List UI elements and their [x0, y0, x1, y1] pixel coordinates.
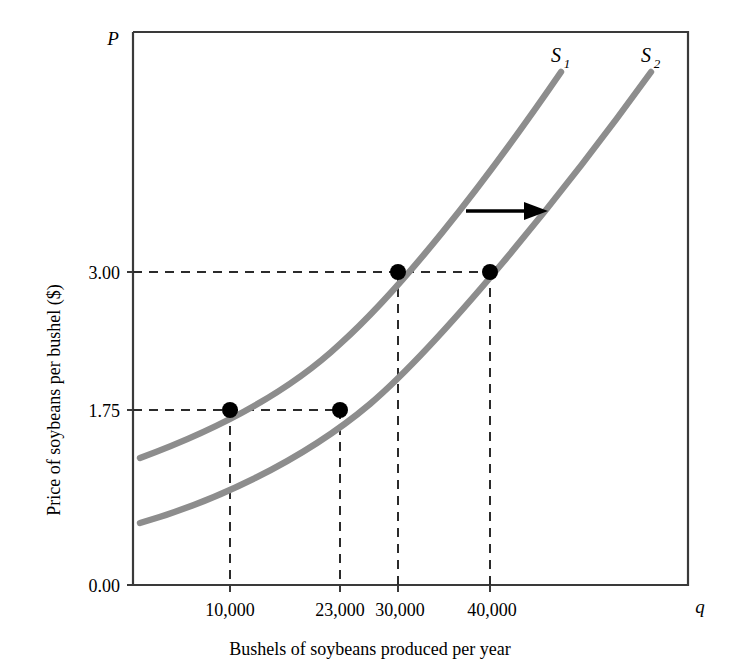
point-s2-1.75 [332, 402, 348, 418]
y-tick-label-1.75: 1.75 [89, 401, 121, 421]
y-tick-label-0.00: 0.00 [89, 576, 121, 596]
curve-label-s2-base: S [641, 44, 651, 66]
x-tick-label-23000: 23,000 [315, 600, 365, 620]
x-axis-variable-label: q [695, 596, 705, 617]
curve-label-s1: S 1 [551, 44, 570, 71]
x-tick-label-30000: 30,000 [375, 600, 425, 620]
y-axis-title: Price of soybeans per bushel ($) [44, 284, 65, 515]
point-s1-1.75 [222, 402, 238, 418]
y-tick-label-3.00: 3.00 [89, 263, 121, 283]
supply-shift-figure: P q 3.00 1.75 0.00 10,000 23,000 30,000 … [0, 0, 740, 666]
rightward-shift-arrow [466, 202, 548, 220]
point-s2-3.00 [482, 264, 498, 280]
guide-lines [133, 272, 490, 585]
curve-label-s2-subscript: 2 [654, 56, 661, 71]
supply-curve-chart: P q 3.00 1.75 0.00 10,000 23,000 30,000 … [0, 0, 740, 666]
plot-frame [133, 32, 688, 585]
data-point-markers [222, 264, 498, 418]
curve-label-s1-base: S [551, 44, 561, 66]
curve-label-s2: S 2 [641, 44, 661, 71]
curve-label-s1-subscript: 1 [564, 56, 571, 71]
x-tick-label-10000: 10,000 [205, 600, 255, 620]
supply-curve-s2 [140, 72, 651, 523]
y-axis-variable-label: P [106, 28, 119, 49]
x-tick-label-40000: 40,000 [467, 600, 517, 620]
x-axis-title: Bushels of soybeans produced per year [229, 639, 510, 659]
point-s1-3.00 [390, 264, 406, 280]
